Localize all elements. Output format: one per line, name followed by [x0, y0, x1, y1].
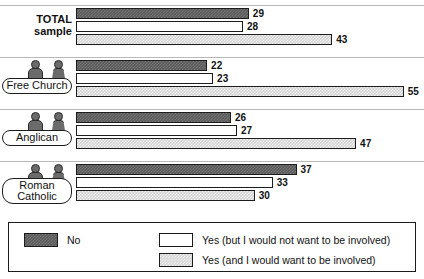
bar: [76, 112, 231, 123]
bar-value-label: 27: [241, 125, 252, 136]
group-separator: [0, 57, 424, 58]
bar: [76, 8, 249, 19]
group-separator: [0, 109, 424, 110]
bar-value-label: 30: [259, 190, 270, 201]
chart-group: 222355Free Church: [0, 60, 424, 106]
legend-item[interactable]: Yes (and I would want to be involved): [159, 253, 376, 267]
bar: [76, 34, 332, 45]
bar: [76, 86, 404, 97]
bar-value-label: 23: [217, 73, 228, 84]
legend-label: Yes (and I would want to be involved): [202, 254, 376, 266]
chart-legend: NoYes (but I would not want to be involv…: [8, 222, 416, 272]
group-separator: [0, 5, 424, 6]
chart-group: 373330Roman Catholic: [0, 164, 424, 210]
bar: [76, 177, 273, 188]
chart-group: 262747Anglican: [0, 112, 424, 158]
bar-value-label: 22: [211, 60, 222, 71]
bar-value-label: 55: [408, 86, 419, 97]
legend-label: No: [67, 234, 80, 246]
bar: [76, 164, 297, 175]
bar-value-label: 37: [301, 164, 312, 175]
bar: [76, 138, 356, 149]
bar: [76, 73, 213, 84]
chart-root: 292843TOTAL sample222355Free Church26274…: [0, 0, 424, 279]
bar-value-label: 26: [235, 112, 246, 123]
bar: [76, 60, 207, 71]
group-label: Anglican: [2, 130, 72, 146]
bar-value-label: 28: [247, 21, 258, 32]
legend-item[interactable]: Yes (but I would not want to be involved…: [159, 233, 390, 247]
legend-swatch: [24, 233, 58, 247]
bar-value-label: 33: [277, 177, 288, 188]
bar-value-label: 29: [253, 8, 264, 19]
legend-swatch: [159, 233, 193, 247]
group-label: TOTAL sample: [8, 14, 72, 37]
bar: [76, 21, 243, 32]
legend-label: Yes (but I would not want to be involved…: [202, 234, 390, 246]
group-separator: [0, 161, 424, 162]
bar: [76, 190, 255, 201]
legend-item[interactable]: No: [24, 233, 80, 247]
group-label: Free Church: [2, 78, 72, 94]
plot-area: 292843TOTAL sample222355Free Church26274…: [0, 0, 424, 216]
group-label: Roman Catholic: [2, 178, 72, 204]
chart-group: 292843TOTAL sample: [0, 8, 424, 54]
bar-value-label: 43: [336, 34, 347, 45]
bar-value-label: 47: [360, 138, 371, 149]
bar: [76, 125, 237, 136]
legend-swatch: [159, 253, 193, 267]
